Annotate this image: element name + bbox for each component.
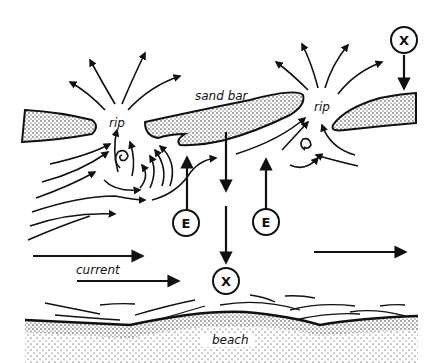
beach-label-front: beach bbox=[212, 333, 249, 347]
rip-right-label: rip bbox=[314, 100, 330, 114]
danger-marker-center: X bbox=[213, 268, 239, 294]
escape-marker-right: E bbox=[253, 209, 279, 235]
rip-left-label: rip bbox=[109, 116, 125, 130]
sand-bar-left bbox=[22, 110, 96, 142]
rip-left-outflow-arrows bbox=[70, 53, 180, 110]
svg-text:X: X bbox=[221, 274, 231, 289]
rip-right-outflow-arrows bbox=[276, 44, 382, 94]
danger-marker-top-right: X bbox=[391, 27, 417, 53]
sand-bar-right bbox=[333, 93, 417, 130]
rip-current-diagram: sand bar rip rip current beach bbox=[0, 0, 444, 363]
sand-bar-label: sand bar bbox=[195, 89, 249, 103]
svg-text:E: E bbox=[182, 216, 191, 231]
svg-text:E: E bbox=[262, 215, 271, 230]
svg-text:X: X bbox=[399, 33, 409, 48]
current-label: current bbox=[76, 263, 121, 277]
escape-marker-left: E bbox=[173, 210, 199, 236]
danger-arrows bbox=[226, 55, 404, 262]
